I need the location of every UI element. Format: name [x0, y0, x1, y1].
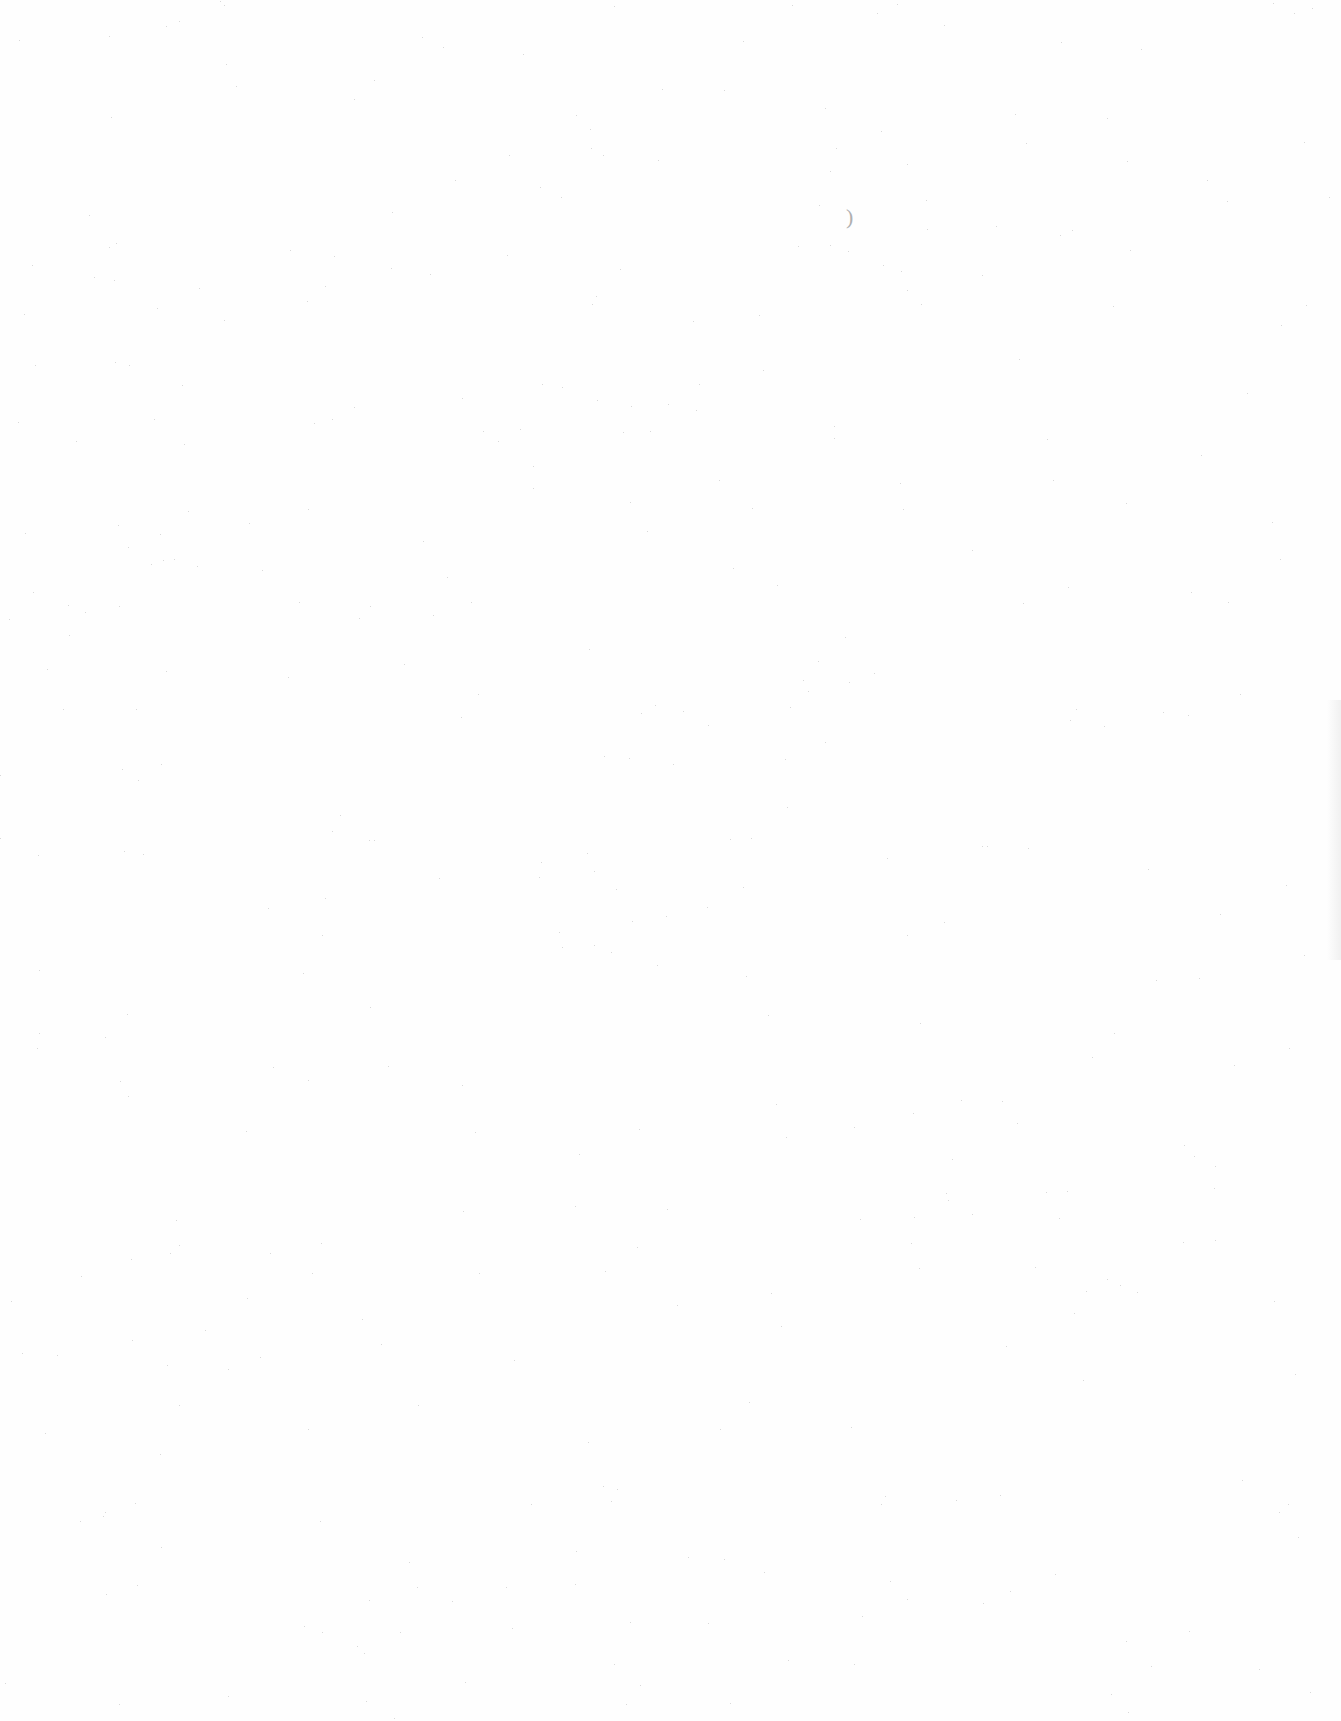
blank-page: ) [0, 0, 1341, 1721]
scan-edge-noise [1327, 700, 1341, 960]
stray-mark: ) [846, 206, 853, 228]
